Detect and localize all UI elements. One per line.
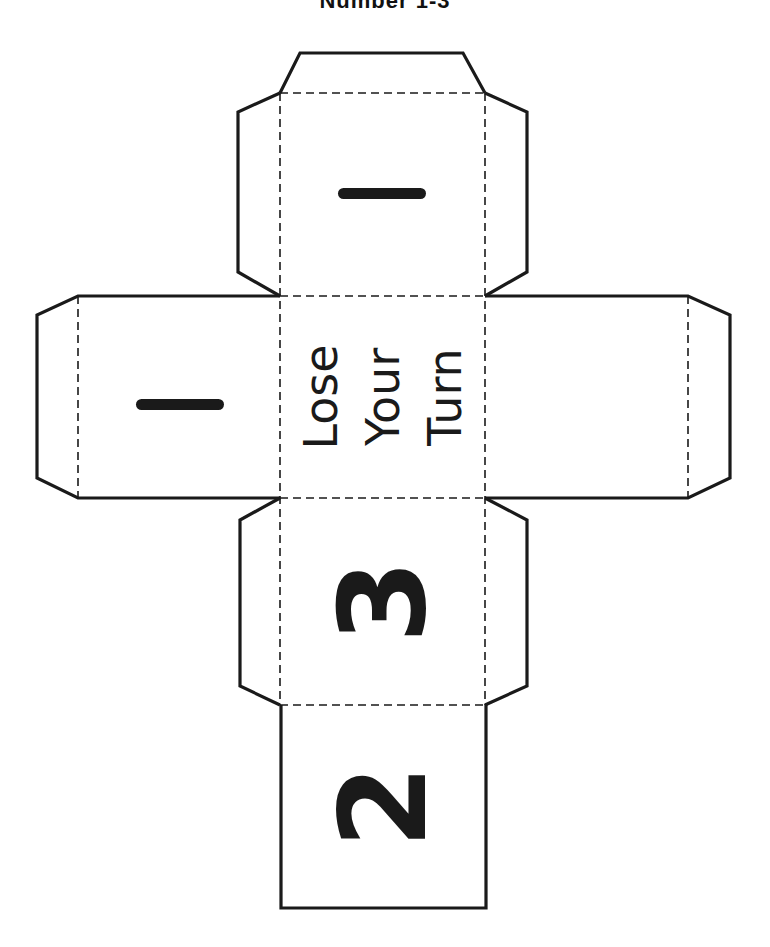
face-two: 2 xyxy=(281,705,486,908)
lose-word: Lose xyxy=(289,344,351,449)
face-right xyxy=(485,296,688,498)
face-center: Lose Your Turn xyxy=(280,296,485,498)
face-left xyxy=(78,296,280,498)
number-two: 2 xyxy=(314,765,453,849)
face-three: 3 xyxy=(280,498,485,705)
one-bar-mark xyxy=(338,188,426,199)
your-word: Your xyxy=(351,344,413,449)
turn-word: Turn xyxy=(413,344,475,449)
lose-your-turn-text: Lose Your Turn xyxy=(289,344,475,449)
face-top xyxy=(280,93,485,296)
one-bar-mark xyxy=(136,399,224,410)
number-three: 3 xyxy=(313,560,452,644)
